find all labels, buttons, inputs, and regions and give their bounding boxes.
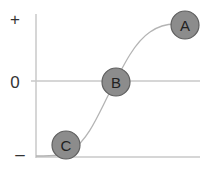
node-a-label: A (180, 17, 190, 34)
sigmoid-diagram: C B A + 0 – (0, 0, 218, 169)
y-axis-label-plus: + (8, 11, 22, 28)
y-axis-label-zero: 0 (8, 74, 22, 91)
y-axis-label-minus: – (12, 146, 28, 163)
node-c: C (52, 131, 80, 159)
node-a: A (171, 11, 199, 39)
node-b-label: B (111, 74, 121, 91)
node-c-label: C (61, 137, 72, 154)
diagram-canvas: C B A (0, 0, 218, 169)
node-b: B (102, 68, 130, 96)
